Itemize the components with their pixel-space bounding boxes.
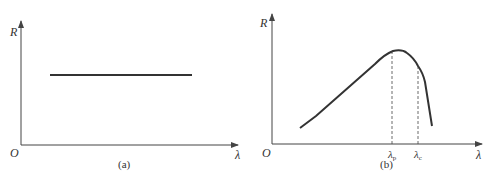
x-axis-label: λ	[234, 148, 240, 162]
origin-label: O	[262, 146, 271, 160]
caption-a: (a)	[118, 158, 131, 171]
panel-a: R O λ (a)	[9, 21, 240, 171]
response-curve	[300, 50, 432, 128]
figure: R O λ (a) R O λ λp λc (b)	[0, 0, 489, 189]
panel-b: R O λ λp λc (b)	[259, 14, 482, 171]
y-axis-label: R	[9, 25, 18, 39]
x-axis-label: λ	[475, 148, 481, 162]
lambda-c-label: λc	[413, 148, 422, 162]
origin-label: O	[10, 146, 19, 160]
caption-b: (b)	[380, 158, 393, 171]
y-axis-label: R	[259, 16, 268, 30]
